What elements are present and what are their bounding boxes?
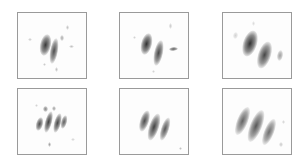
activation-blob [60,35,64,41]
activation-blob [28,38,32,41]
activation-blob [282,120,285,124]
activation-blob [232,31,238,39]
activation-blob [152,70,155,73]
activation-blob [55,67,58,72]
activation-blob [179,147,182,150]
activation-blob [43,63,46,66]
activation-blob [276,49,284,61]
activation-blob [71,138,75,141]
activation-blob [48,142,51,147]
activation-blob [168,47,177,52]
activation-blob [279,142,283,147]
activation-blob [66,25,69,30]
activation-blob [169,23,172,29]
activation-blob [151,39,165,66]
activation-blob [69,45,74,48]
filter-panel-1 [17,12,87,79]
activation-blob [35,104,38,107]
filter-panel-4 [17,88,87,155]
activation-blob [34,116,44,131]
activation-blob [138,32,154,56]
activation-blob [52,106,56,111]
filter-panel-2 [119,12,189,79]
filter-panel-3 [222,12,292,79]
filter-panel-6 [222,88,292,155]
activation-blob [43,106,48,112]
filter-panel-5 [119,88,189,155]
activation-blob [252,21,255,26]
activation-blob [133,36,136,39]
